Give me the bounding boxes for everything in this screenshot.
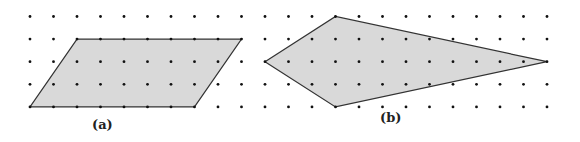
grid-dot <box>76 106 79 109</box>
grid-dot <box>428 83 431 86</box>
grid-dot <box>217 38 220 41</box>
grid-dot <box>52 60 55 63</box>
grid-dot <box>193 106 196 109</box>
grid-dot <box>240 106 243 109</box>
grid-dot <box>170 15 173 18</box>
grid-dot <box>311 106 314 109</box>
grid-dot <box>29 60 32 63</box>
grid-dot <box>499 60 502 63</box>
grid-dot <box>217 83 220 86</box>
grid-dot <box>146 15 149 18</box>
grid-dot <box>217 15 220 18</box>
grid-dot <box>334 38 337 41</box>
grid-dot <box>99 15 102 18</box>
grid-dot <box>381 83 384 86</box>
grid-dot <box>475 83 478 86</box>
grid-dot <box>452 83 455 86</box>
grid-dot <box>29 38 32 41</box>
grid-dot <box>170 38 173 41</box>
grid-dot <box>287 38 290 41</box>
grid-dot <box>170 60 173 63</box>
grid-dot <box>76 83 79 86</box>
grid-dot <box>475 60 478 63</box>
grid-dot <box>452 15 455 18</box>
grid-dot <box>240 15 243 18</box>
grid-dot <box>358 60 361 63</box>
grid-dot <box>381 106 384 109</box>
grid-dot <box>76 60 79 63</box>
grid-dot <box>170 106 173 109</box>
grid-dot <box>334 106 337 109</box>
grid-dot <box>123 83 126 86</box>
grid-dot <box>428 60 431 63</box>
grid-dot <box>146 60 149 63</box>
grid-dot <box>522 106 525 109</box>
grid-dot <box>52 15 55 18</box>
grid-dot <box>240 83 243 86</box>
grid-dot <box>358 106 361 109</box>
grid-dot <box>123 106 126 109</box>
grid-dot <box>334 83 337 86</box>
grid-dot <box>264 38 267 41</box>
grid-dot <box>452 60 455 63</box>
grid-dot <box>546 60 549 63</box>
grid-dot <box>193 15 196 18</box>
grid-dot <box>428 38 431 41</box>
grid-dot <box>123 60 126 63</box>
grid-dot <box>428 106 431 109</box>
label-b: (b) <box>380 110 401 125</box>
grid-dot <box>311 60 314 63</box>
grid-dot <box>499 106 502 109</box>
grid-dot <box>264 60 267 63</box>
grid-dot <box>405 83 408 86</box>
grid-dot <box>99 83 102 86</box>
grid-dot <box>334 60 337 63</box>
grid-dot <box>311 38 314 41</box>
grid-dot <box>452 106 455 109</box>
grid-dot <box>52 83 55 86</box>
grid-dot <box>29 83 32 86</box>
grid-dot <box>475 38 478 41</box>
grid-dot <box>311 83 314 86</box>
grid-dot <box>193 38 196 41</box>
grid-dot <box>381 38 384 41</box>
grid-dot <box>311 15 314 18</box>
grid-dot <box>522 60 525 63</box>
grid-dot <box>334 15 337 18</box>
grid-dot <box>287 60 290 63</box>
grid-dot <box>475 106 478 109</box>
grid-dot <box>193 83 196 86</box>
grid-dot <box>358 15 361 18</box>
grid-dot <box>522 38 525 41</box>
grid-dot <box>29 15 32 18</box>
grid-dot <box>546 38 549 41</box>
grid-dot <box>358 83 361 86</box>
grid-dot <box>499 38 502 41</box>
grid-dot <box>52 106 55 109</box>
grid-dot <box>99 60 102 63</box>
dot-grid-figure: (a) (b) <box>0 0 580 142</box>
grid-dot <box>381 15 384 18</box>
grid-dot <box>146 106 149 109</box>
grid-dot <box>405 60 408 63</box>
grid-dot <box>264 15 267 18</box>
grid-dot <box>428 15 431 18</box>
grid-dot <box>76 15 79 18</box>
grid-dot <box>123 38 126 41</box>
grid-dot <box>405 38 408 41</box>
grid-dot <box>99 106 102 109</box>
grid-dot <box>29 106 32 109</box>
dot-grid-canvas <box>0 0 580 142</box>
grid-dot <box>287 106 290 109</box>
grid-dot <box>76 38 79 41</box>
parallelogram-shape <box>30 39 242 107</box>
grid-dot <box>52 38 55 41</box>
grid-dot <box>358 38 361 41</box>
label-a: (a) <box>92 117 113 132</box>
grid-dot <box>146 83 149 86</box>
grid-dot <box>546 83 549 86</box>
grid-dot <box>123 15 126 18</box>
grid-dot <box>217 60 220 63</box>
grid-dot <box>99 38 102 41</box>
grid-dot <box>499 15 502 18</box>
